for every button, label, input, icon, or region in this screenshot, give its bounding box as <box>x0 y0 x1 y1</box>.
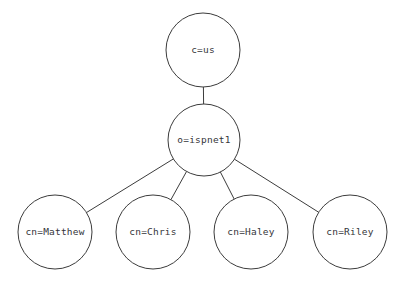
tree-node[interactable]: cn=Haley <box>214 195 288 269</box>
diagram-canvas: c=uso=ispnet1cn=Matthewcn=Chriscn=Haleyc… <box>0 0 408 285</box>
tree-edge <box>220 172 234 199</box>
tree-node[interactable]: o=ispnet1 <box>168 104 240 176</box>
tree-node[interactable]: c=us <box>166 13 240 87</box>
nodes-layer: c=uso=ispnet1cn=Matthewcn=Chriscn=Haleyc… <box>18 13 387 269</box>
node-label: cn=Riley <box>326 226 373 237</box>
node-label: cn=Matthew <box>25 226 84 237</box>
tree-edge <box>171 171 187 199</box>
directory-tree-diagram: c=uso=ispnet1cn=Matthewcn=Chriscn=Haleyc… <box>0 0 408 285</box>
tree-node[interactable]: cn=Chris <box>116 195 190 269</box>
tree-node[interactable]: cn=Matthew <box>18 195 92 269</box>
tree-node[interactable]: cn=Riley <box>313 195 387 269</box>
node-label: cn=Haley <box>227 226 274 237</box>
node-label: c=us <box>191 44 215 55</box>
node-label: cn=Chris <box>129 226 176 237</box>
node-label: o=ispnet1 <box>177 134 230 145</box>
